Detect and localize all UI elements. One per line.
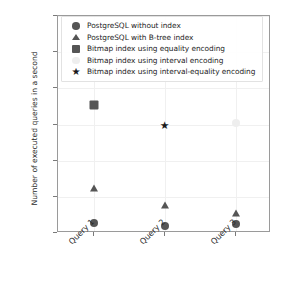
- legend-item: Bitmap index using equality encoding: [65, 43, 258, 55]
- legend-marker: [65, 34, 87, 40]
- x-tick-mark: [164, 232, 165, 236]
- gridline-horizontal: [58, 197, 269, 198]
- legend-item: PostgreSQL without index: [65, 20, 258, 32]
- data-point: [89, 100, 98, 109]
- data-point: [232, 119, 240, 127]
- legend-label: Bitmap index using interval-equality enc…: [87, 67, 255, 76]
- marker-square: [72, 45, 80, 53]
- marker-triangle: [72, 34, 80, 40]
- y-axis-label: Number of executed queries in a second: [30, 29, 39, 229]
- marker-circle: [72, 57, 80, 65]
- legend-label: PostgreSQL with B-tree index: [87, 33, 193, 42]
- legend-label: Bitmap index using interval encoding: [87, 56, 223, 65]
- figure: Number of executed queries in a second 0…: [0, 0, 282, 289]
- data-point: [232, 209, 240, 216]
- data-point: ★: [159, 122, 170, 133]
- data-point: [161, 201, 169, 208]
- legend-item: PostgreSQL with B-tree index: [65, 32, 258, 44]
- legend-marker: [65, 57, 87, 65]
- gridline-horizontal: [58, 88, 269, 89]
- data-point: [90, 184, 98, 191]
- y-tick-mark: [53, 232, 57, 233]
- chart-legend: PostgreSQL without indexPostgreSQL with …: [61, 16, 263, 82]
- legend-marker: ★: [65, 67, 87, 77]
- x-tick-mark: [93, 232, 94, 236]
- x-tick-mark: [235, 232, 236, 236]
- legend-label: PostgreSQL without index: [87, 21, 181, 30]
- legend-marker: [65, 45, 87, 53]
- legend-item: ★Bitmap index using interval-equality en…: [65, 66, 258, 78]
- legend-item: Bitmap index using interval encoding: [65, 55, 258, 67]
- legend-label: Bitmap index using equality encoding: [87, 44, 225, 53]
- marker-star: ★: [71, 67, 81, 77]
- marker-circle: [72, 22, 80, 30]
- legend-marker: [65, 22, 87, 30]
- gridline-horizontal: [58, 161, 269, 162]
